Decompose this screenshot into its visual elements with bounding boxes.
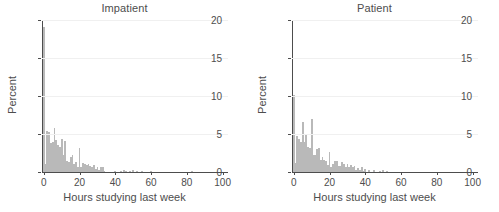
x-tick-label-patient: 80 xyxy=(431,177,442,188)
y-tick-label-impatient: 0 xyxy=(216,167,222,178)
y-tick-patient xyxy=(288,96,291,97)
histogram-bar xyxy=(136,171,138,172)
y-tick-patient xyxy=(288,134,291,135)
x-tick-patient xyxy=(294,172,295,175)
x-tick-label-impatient: 100 xyxy=(214,177,231,188)
x-tick-impatient xyxy=(223,172,224,175)
gridline-y-impatient xyxy=(42,96,228,97)
gridline-y-patient xyxy=(292,58,478,59)
x-tick-impatient xyxy=(187,172,188,175)
gridline-y-impatient xyxy=(42,134,228,135)
panel-patient: Patient Percent 05101520020406080100 Hou… xyxy=(250,0,499,212)
histogram-bar xyxy=(382,170,384,172)
y-tick-impatient xyxy=(38,134,41,135)
y-tick-label-impatient: 20 xyxy=(211,15,222,26)
panel-title-patient: Patient xyxy=(250,2,499,14)
y-tick-label-impatient: 10 xyxy=(211,91,222,102)
histogram-bar xyxy=(373,170,375,172)
histogram-bar xyxy=(386,171,388,172)
x-tick-patient xyxy=(330,172,331,175)
y-tick-impatient xyxy=(38,96,41,97)
x-tick-impatient xyxy=(80,172,81,175)
panel-title-impatient: Impatient xyxy=(0,2,249,14)
y-tick-patient xyxy=(288,20,291,21)
gridline-y-patient xyxy=(292,20,478,21)
y-tick-impatient xyxy=(38,20,41,21)
histogram-bar xyxy=(132,170,134,172)
x-tick-label-patient: 20 xyxy=(324,177,335,188)
x-tick-label-patient: 60 xyxy=(396,177,407,188)
y-tick-label-impatient: 15 xyxy=(211,53,222,64)
panel-impatient: Impatient Percent 05101520020406080100 H… xyxy=(0,0,249,212)
x-tick-impatient xyxy=(151,172,152,175)
gridline-y-impatient xyxy=(42,20,228,21)
y-tick-label-patient: 20 xyxy=(461,15,472,26)
x-tick-impatient xyxy=(115,172,116,175)
figure-two-histograms: Impatient Percent 05101520020406080100 H… xyxy=(0,0,499,212)
histogram-bar xyxy=(129,171,131,172)
x-tick-label-impatient: 0 xyxy=(41,177,47,188)
x-tick-label-impatient: 80 xyxy=(181,177,192,188)
histogram-bar xyxy=(379,171,381,172)
gridline-y-impatient xyxy=(42,58,228,59)
plot-area-impatient: 05101520020406080100 xyxy=(42,20,228,172)
histogram-bar xyxy=(43,27,45,172)
x-tick-label-patient: 0 xyxy=(291,177,297,188)
histogram-bar xyxy=(191,171,193,172)
y-axis-title-impatient: Percent xyxy=(6,76,18,114)
y-tick-label-patient: 10 xyxy=(461,91,472,102)
x-axis-title-patient: Hours studying last week xyxy=(250,191,499,203)
x-tick-patient xyxy=(365,172,366,175)
x-axis-title-impatient: Hours studying last week xyxy=(0,191,249,203)
y-tick-patient xyxy=(288,172,291,173)
y-tick-impatient xyxy=(38,172,41,173)
x-tick-label-impatient: 60 xyxy=(146,177,157,188)
y-tick-label-patient: 15 xyxy=(461,53,472,64)
y-tick-label-patient: 5 xyxy=(466,129,472,140)
y-tick-label-patient: 0 xyxy=(466,167,472,178)
histogram-bar xyxy=(104,171,106,172)
plot-area-patient: 05101520020406080100 xyxy=(292,20,478,172)
x-tick-label-patient: 40 xyxy=(360,177,371,188)
x-tick-patient xyxy=(437,172,438,175)
x-tick-patient xyxy=(401,172,402,175)
y-tick-patient xyxy=(288,58,291,59)
x-tick-impatient xyxy=(44,172,45,175)
histogram-bar xyxy=(125,171,127,172)
histogram-bar xyxy=(141,171,143,172)
y-tick-impatient xyxy=(38,58,41,59)
x-tick-label-impatient: 20 xyxy=(74,177,85,188)
x-tick-label-patient: 100 xyxy=(464,177,481,188)
y-tick-label-impatient: 5 xyxy=(216,129,222,140)
histogram-bar xyxy=(368,170,370,172)
x-tick-label-impatient: 40 xyxy=(110,177,121,188)
y-axis-title-patient: Percent xyxy=(256,76,268,114)
x-tick-patient xyxy=(473,172,474,175)
histogram-bar xyxy=(120,171,122,172)
gridline-y-patient xyxy=(292,134,478,135)
gridline-y-patient xyxy=(292,96,478,97)
